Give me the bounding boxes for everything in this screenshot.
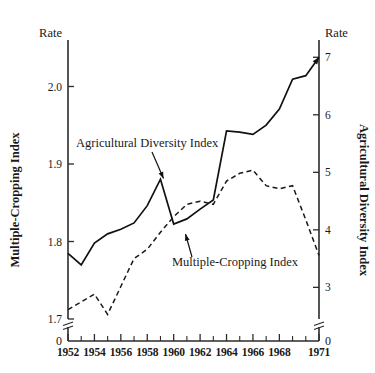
- left-tick-label: 1.9: [48, 158, 63, 170]
- left-tick-label: 2.0: [48, 81, 63, 93]
- x-axis: 1952195419561958196019621964196619681971: [57, 334, 331, 358]
- right-tick-label: 7: [325, 51, 331, 63]
- left-axis-ticks: [68, 87, 74, 320]
- left-axis-rate-label: Rate: [39, 26, 62, 40]
- right-axis-tick-labels: 76543: [325, 51, 331, 293]
- right-tick-label: 4: [325, 224, 331, 236]
- right-tick-label: 5: [325, 166, 331, 178]
- left-axis-title: Multiple-Cropping Index: [8, 132, 22, 268]
- x-tick-label: 1968: [268, 346, 291, 358]
- annotation-agricultural-diversity-index: Agricultural Diversity Index: [76, 136, 219, 179]
- x-tick-label: 1960: [163, 346, 186, 358]
- right-tick-label: 3: [325, 281, 331, 293]
- x-axis-ticks: [68, 334, 319, 341]
- chart-figure: 2.01.91.81.7 0 Rate Multiple-Cropping In…: [0, 0, 375, 373]
- annotation-arrowhead-icon: [159, 172, 164, 179]
- x-tick-label: 1954: [83, 346, 106, 358]
- x-tick-label: 1962: [189, 346, 212, 358]
- left-axis: 2.01.91.81.7 0 Rate Multiple-Cropping In…: [8, 26, 74, 348]
- x-tick-label: 1966: [242, 346, 265, 358]
- x-tick-label: 1971: [308, 346, 331, 358]
- left-tick-label: 1.8: [48, 236, 63, 248]
- x-tick-label: 1952: [57, 346, 80, 358]
- x-axis-tick-labels: 1952195419561958196019621964196619681971: [57, 346, 331, 358]
- x-tick-label: 1956: [110, 346, 133, 358]
- chart-svg: 2.01.91.81.7 0 Rate Multiple-Cropping In…: [0, 0, 375, 373]
- series-line-multiple-cropping-index: [68, 170, 319, 314]
- annotation-label-agricultural-diversity-index: Agricultural Diversity Index: [76, 136, 219, 150]
- left-axis-tick-labels: 2.01.91.81.7: [48, 81, 63, 326]
- left-tick-label: 1.7: [48, 313, 63, 325]
- right-axis-rate-label: Rate: [325, 26, 348, 40]
- annotation-label-multiple-cropping-index: Multiple-Cropping Index: [172, 255, 299, 269]
- annotation-multiple-cropping-index: Multiple-Cropping Index: [172, 234, 299, 269]
- right-axis: 76543 0 Rate Agricultural Diversity Inde…: [313, 26, 371, 348]
- right-axis-ticks: [313, 57, 319, 287]
- left-axis-break-icon: [63, 322, 73, 330]
- right-axis-break-icon: [314, 322, 324, 330]
- x-tick-label: 1958: [136, 346, 159, 358]
- right-axis-title: Agricultural Diversity Index: [357, 124, 371, 277]
- x-tick-label: 1964: [215, 346, 238, 358]
- plot-area: [68, 57, 319, 314]
- series-line-agricultural-diversity-index: [68, 57, 319, 265]
- annotation-arrowhead-icon: [185, 234, 190, 241]
- right-tick-label: 6: [325, 109, 331, 121]
